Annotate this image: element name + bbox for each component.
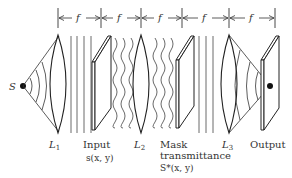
focus-point (267, 83, 273, 89)
source-label: S (9, 81, 16, 92)
focal-length-label: f (201, 12, 208, 23)
lens1-label: L1 (48, 139, 60, 152)
mask-plate (176, 36, 194, 128)
focal-length-label: f (157, 12, 164, 23)
plane-waves-2 (199, 36, 213, 133)
diffracted-waves-1 (113, 38, 133, 128)
lens-l3 (221, 35, 237, 133)
lens-l1 (50, 35, 66, 133)
mask-transmittance-label: transmittance (160, 150, 231, 161)
focal-length-label: f (116, 12, 123, 23)
dimension-arrows (59, 16, 274, 21)
input-function-label: s(x, y) (86, 153, 114, 163)
point-source (20, 36, 59, 132)
optical-correlator-diagram: f f f f f S (0, 0, 292, 178)
lens2-label: L2 (133, 139, 145, 152)
input-label: Input (83, 139, 110, 150)
mask-function-label: S*(x, y) (160, 163, 194, 173)
focal-length-label: f (248, 12, 255, 23)
mask-label: Mask (160, 139, 188, 150)
diffracted-waves-2 (153, 38, 173, 128)
focal-length-label: f (75, 12, 82, 23)
output-label: Output (250, 139, 286, 150)
dimension-labels: f f f f f (75, 12, 255, 23)
input-plate (92, 36, 111, 130)
lens-l2 (133, 35, 149, 133)
plane-waves-1 (71, 36, 91, 133)
